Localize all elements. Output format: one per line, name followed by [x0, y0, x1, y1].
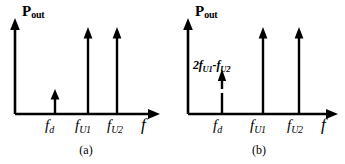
panel-caption-a: (a)	[0, 144, 172, 156]
tick-label-fu2-sub-a: U2	[111, 124, 123, 135]
panel-a: Pout fd fU1 fU2 f (a)	[0, 0, 172, 164]
spectrum-figure: Pout fd fU1 fU2 f (a)	[0, 0, 345, 164]
tick-label-fu1-sub-b: U1	[254, 124, 266, 135]
y-axis-label-main-b: P	[195, 3, 204, 19]
tick-label-fu1-b: fU1	[250, 118, 266, 133]
y-axis-label-sub-a: out	[31, 9, 44, 20]
x-axis-label-a: f	[141, 116, 146, 133]
panel-b: Pout 2fU1-fU2 fd fU1 fU2 f (b)	[173, 0, 345, 164]
tick-label-fd-sub-a: d	[49, 124, 54, 135]
tick-label-fu2-b: fU2	[287, 118, 303, 133]
spectral-line-fu2-a	[113, 27, 122, 114]
y-axis-b	[183, 18, 193, 114]
y-axis-a	[10, 18, 20, 114]
y-axis-label-a: Pout	[22, 4, 44, 19]
tick-label-fd-sub-b: d	[217, 124, 222, 135]
tick-label-fu2-a: fU2	[107, 118, 123, 133]
x-axis-label-b: f	[321, 116, 326, 133]
panel-b-graph	[173, 0, 345, 164]
spectral-line-fu1-b	[259, 27, 268, 114]
spectral-line-fu1-a	[84, 27, 93, 114]
y-axis-label-b: Pout	[195, 4, 217, 19]
tick-label-fu1-a: fU1	[75, 118, 91, 133]
intermod-annotation-prefix: 2f	[193, 58, 203, 72]
intermod-annotation-sub2: U2	[220, 64, 230, 74]
tick-label-fu2-sub-b: U2	[291, 124, 303, 135]
spectral-line-fu2-b	[295, 27, 304, 114]
y-axis-label-main-a: P	[22, 3, 31, 19]
tick-label-fd-a: fd	[45, 118, 54, 133]
panel-a-graph	[0, 0, 172, 164]
intermod-annotation-sub1: U1	[203, 64, 213, 74]
spectral-line-fd-b	[218, 69, 226, 114]
intermod-annotation: 2fU1-fU2	[193, 59, 230, 71]
y-axis-label-sub-b: out	[204, 9, 217, 20]
tick-label-fu1-sub-a: U1	[79, 124, 91, 135]
spectral-line-fd-a	[51, 89, 60, 114]
tick-label-fd-b: fd	[213, 118, 222, 133]
panel-caption-b: (b)	[173, 144, 345, 156]
